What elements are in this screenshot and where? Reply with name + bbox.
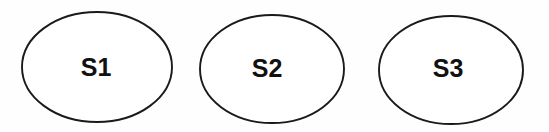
ellipse-diagram: S1 S2 S3 <box>0 0 549 132</box>
ellipse-label-s2: S2 <box>252 54 283 82</box>
diagram-canvas: S1 S2 S3 <box>0 0 549 132</box>
ellipse-label-s1: S1 <box>81 53 112 81</box>
node-group-s2[interactable]: S2 <box>200 15 344 123</box>
ellipse-label-s3: S3 <box>433 54 464 82</box>
node-group-s1[interactable]: S1 <box>22 12 172 122</box>
node-group-s3[interactable]: S3 <box>379 16 523 124</box>
